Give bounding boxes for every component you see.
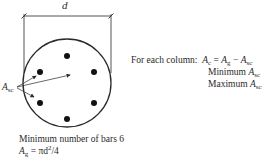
dimension-label-d: d	[62, 0, 68, 11]
max-asc-line: Maximum Asc	[208, 79, 262, 90]
min-bars-note: Minimum number of bars 6	[19, 134, 124, 145]
ac-formula-line: For each column: Ac = Ag − Asc	[131, 55, 252, 66]
bar-dot	[91, 69, 97, 75]
bar-dot	[64, 53, 70, 59]
bar-dot	[37, 69, 43, 75]
dimension-line	[22, 14, 114, 74]
asc-label: Asc	[2, 82, 14, 93]
min-asc-line: Minimum Asc	[208, 67, 260, 78]
bar-dot	[91, 100, 97, 106]
bar-dot	[64, 116, 70, 122]
ag-formula: Ag = πd2/4	[19, 146, 59, 157]
bar-dot	[37, 100, 43, 106]
reinforcement-bars	[37, 53, 97, 122]
